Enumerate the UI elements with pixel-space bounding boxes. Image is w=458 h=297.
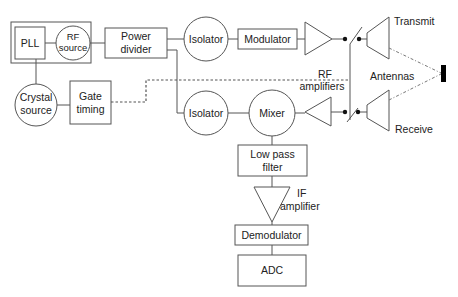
rf-amplifiers-label-line2: amplifiers [300,80,345,92]
rf-amplifiers-label-line1: RF [318,68,332,80]
antennas-label: Antennas [370,70,414,82]
mixer-label: Mixer [259,107,285,119]
mixer-block: Mixer [249,90,295,136]
receive-label: Receive [395,123,433,135]
isolator-rx-label: Isolator [189,107,224,119]
modulator-block: Modulator [238,29,297,49]
tx-rf-amplifier [305,22,332,55]
isolator-tx-block: Isolator [184,17,228,61]
gate-timing-label-line2: timing [76,103,104,115]
transmit-horn-antenna-icon [367,17,389,59]
gate-timing-block: Gate timing [70,81,111,124]
pll-label: PLL [21,37,40,49]
adc-block: ADC [238,255,306,286]
receive-horn-antenna-icon [367,90,389,131]
power-divider-block: Power divider [105,28,167,58]
power-divider-label-line2: divider [121,43,152,55]
rf-source-label-line1: RF [67,31,80,42]
rx-rf-amplifier [305,97,331,126]
gate-timing-label-line1: Gate [79,90,102,102]
radar-block-diagram: PLL RF source Power divider Crystal sour… [0,0,458,297]
wires [36,27,367,255]
adc-label: ADC [261,264,284,276]
if-amplifier-block: IF amplifier [254,187,320,222]
demodulator-block: Demodulator [235,225,308,245]
isolator-rx-block: Isolator [184,91,228,135]
pll-block: PLL [15,27,45,59]
crystal-source-block: Crystal source [15,84,57,126]
crystal-source-label-line2: source [20,104,52,116]
rf-source-label-line2: source [59,42,88,53]
if-amplifier-label-line2: amplifier [280,200,320,212]
isolator-tx-label: Isolator [189,33,224,45]
low-pass-filter-block: Low pass filter [238,145,307,176]
demodulator-label: Demodulator [241,229,302,241]
rf-source-block: RF source [56,26,90,60]
low-pass-filter-label-line1: Low pass [250,148,294,160]
power-divider-label-line1: Power [121,30,151,42]
target-icon [441,65,446,82]
transmit-label: Transmit [394,15,435,27]
low-pass-filter-label-line2: filter [263,161,283,173]
modulator-label: Modulator [244,33,291,45]
if-amplifier-label-line1: IF [297,187,306,199]
crystal-source-label-line1: Crystal [20,91,53,103]
switch-contacts [343,37,361,114]
